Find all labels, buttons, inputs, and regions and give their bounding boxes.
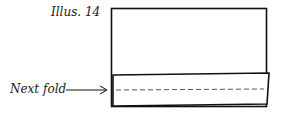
arrow-right-icon [66,86,107,94]
fold-diagram [0,0,284,114]
